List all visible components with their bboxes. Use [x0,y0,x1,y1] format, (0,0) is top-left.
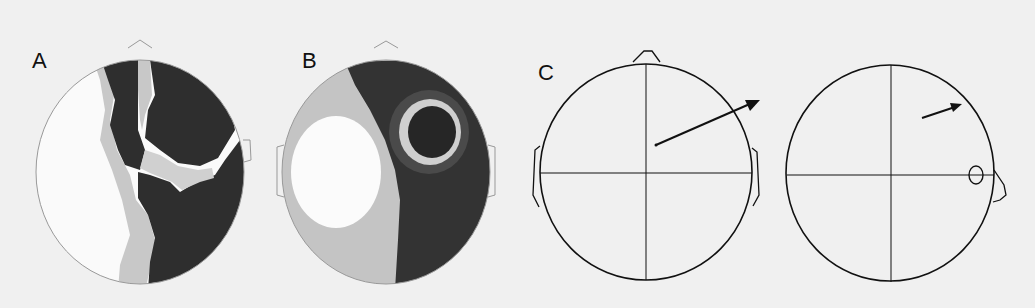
panel-b-topomap [277,41,495,290]
panel-c-dipole-arrow-shaft [656,103,752,145]
panel-c-side-dipole-arrow-icon [950,103,962,112]
panel-c-right-ear-icon [752,148,759,206]
panel-a-topomap [30,40,252,290]
figure: A B C [0,0,1035,308]
panel-c-side-head-outline [786,65,994,281]
panel-label-a: A [32,48,47,74]
panel-c-top-view [533,51,760,280]
panel-label-c: C [538,60,554,86]
panel-label-b: B [302,48,317,74]
panel-c-left-ear-icon [533,146,540,207]
panel-a-ear-icon [243,140,251,162]
panel-c-side-nose-icon [993,170,1006,202]
panel-c-side-dipole-arrow-shaft [922,107,955,118]
figure-canvas [0,0,1035,308]
panel-b-nose-icon [374,41,398,48]
panel-c-nose-icon [633,51,660,62]
panel-a-nose-icon [128,40,152,48]
panel-c-side-view [786,65,1006,282]
